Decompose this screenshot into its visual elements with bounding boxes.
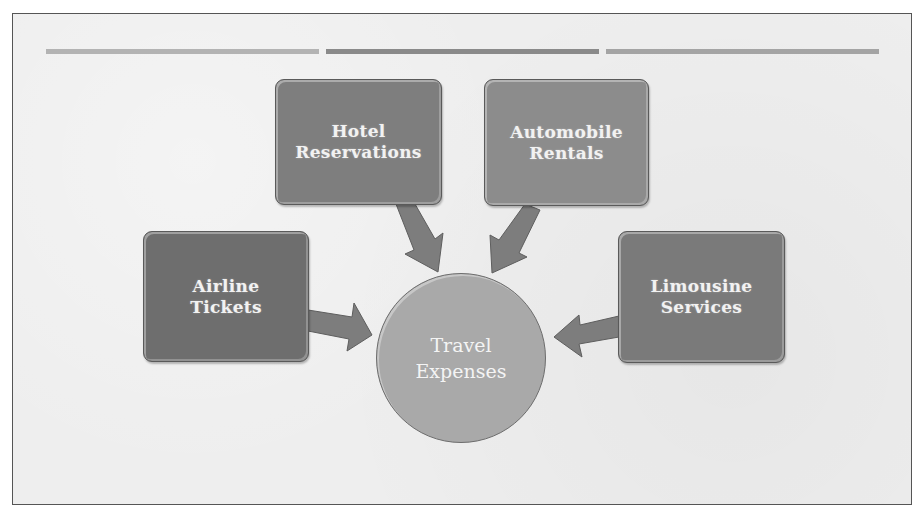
- node-label: Hotel Reservations: [295, 121, 421, 163]
- arrow-automobile-to-hub: [490, 204, 540, 273]
- node-label: Automobile Rentals: [510, 122, 623, 164]
- slide-frame: Hotel Reservations Automobile Rentals Ai…: [12, 13, 912, 505]
- node-hotel-reservations: Hotel Reservations: [275, 79, 442, 205]
- node-label: Airline Tickets: [190, 276, 262, 318]
- arrow-limousine-to-hub: [554, 315, 619, 357]
- hub-travel-expenses: Travel Expenses: [376, 273, 546, 443]
- node-limousine-services: Limousine Services: [618, 231, 785, 363]
- node-label: Limousine Services: [650, 276, 752, 318]
- arrow-hotel-to-hub: [396, 197, 443, 272]
- header-bar-3: [606, 49, 879, 54]
- node-automobile-rentals: Automobile Rentals: [484, 79, 649, 206]
- header-bar-1: [46, 49, 319, 54]
- node-airline-tickets: Airline Tickets: [143, 231, 309, 362]
- hub-label: Travel Expenses: [416, 332, 507, 384]
- header-bar-2: [326, 49, 599, 54]
- arrow-airline-to-hub: [308, 303, 372, 351]
